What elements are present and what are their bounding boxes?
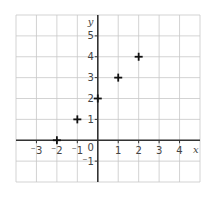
y-tick-label: ⁻1 (82, 156, 94, 167)
plus-marker-icon (135, 53, 143, 61)
y-axis-label: y (87, 16, 94, 27)
plus-marker-icon (94, 95, 102, 103)
plus-marker-icon (73, 115, 81, 123)
x-tick-label: ⁻1 (72, 145, 84, 156)
y-tick-label: 3 (87, 72, 93, 83)
y-tick-label: 1 (87, 114, 93, 125)
coordinate-grid-chart: ⁻3⁻2⁻11234⁻1123450xy (0, 0, 212, 197)
origin-label: 0 (87, 142, 93, 153)
x-tick-label: ⁻2 (51, 145, 63, 156)
tick-labels: ⁻3⁻2⁻11234⁻1123450xy (31, 16, 199, 167)
plus-marker-icon (53, 136, 61, 144)
x-tick-label: 4 (176, 145, 182, 156)
plus-marker-icon (114, 74, 122, 82)
y-tick-label: 5 (87, 30, 93, 41)
grid-lines (16, 15, 200, 182)
x-axis-label: x (193, 144, 199, 155)
x-tick-label: 1 (115, 145, 121, 156)
y-tick-label: 4 (87, 51, 93, 62)
x-tick-label: 3 (156, 145, 162, 156)
y-tick-label: 2 (87, 93, 93, 104)
x-tick-label: ⁻3 (31, 145, 43, 156)
x-tick-label: 2 (135, 145, 141, 156)
